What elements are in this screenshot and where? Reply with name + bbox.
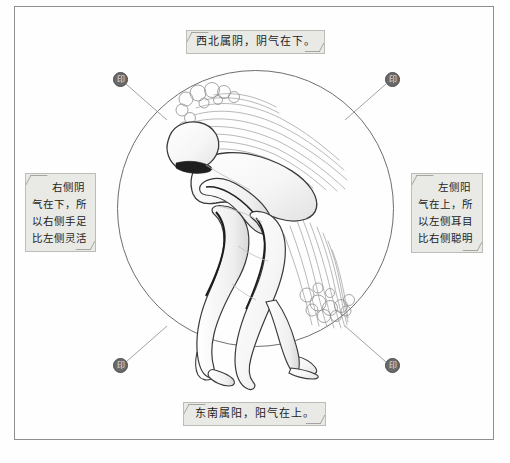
seal-bottom-right-icon: 印 bbox=[385, 358, 400, 373]
seal-top-left-glyph: 印 bbox=[114, 73, 127, 88]
caption-left-text: 右侧阴气在下，所以右侧手足比左侧灵活 bbox=[32, 179, 90, 247]
caption-left: 右侧阴气在下，所以右侧手足比左侧灵活 bbox=[25, 173, 96, 252]
caption-bottom: 东南属阳，阳气在上。 bbox=[183, 402, 326, 426]
seal-bottom-left-icon: 印 bbox=[113, 358, 128, 373]
caption-right-text: 左侧阳气在上，所以左侧耳目比右侧聪明 bbox=[418, 179, 477, 247]
caption-top-text: 西北属阴，阴气在下。 bbox=[187, 31, 324, 53]
seal-top-left-icon: 印 bbox=[113, 72, 128, 87]
illustration-canvas: 西北属阴，阴气在下。 东南属阳，阳气在上。 右侧阴气在下，所以右侧手足比左侧灵活… bbox=[0, 0, 510, 463]
seal-top-right-icon: 印 bbox=[385, 72, 400, 87]
seal-bottom-right-glyph: 印 bbox=[386, 359, 399, 374]
seal-bottom-left-glyph: 印 bbox=[114, 359, 127, 374]
caption-top: 西北属阴，阴气在下。 bbox=[186, 30, 325, 54]
qi-stream-lower bbox=[284, 218, 348, 328]
caption-bottom-text: 东南属阳，阳气在上。 bbox=[184, 403, 325, 425]
caption-right: 左侧阳气在上，所以左侧耳目比右侧聪明 bbox=[411, 173, 483, 253]
seal-top-right-glyph: 印 bbox=[386, 73, 399, 88]
figure-rear-foot bbox=[208, 370, 234, 386]
